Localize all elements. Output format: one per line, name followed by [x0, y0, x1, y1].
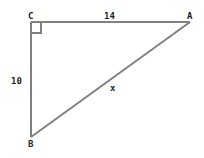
- triangle-edges: [31, 22, 190, 137]
- triangle-diagram: C A B 14 10 x: [0, 0, 204, 158]
- right-angle-marker: [31, 22, 41, 33]
- vertex-label-b: B: [28, 139, 34, 149]
- side-ab: [31, 22, 190, 137]
- vertex-label-a: A: [187, 11, 193, 21]
- side-label-ab: x: [110, 83, 116, 93]
- side-label-ca: 14: [104, 11, 115, 21]
- vertex-label-c: C: [28, 11, 33, 21]
- side-label-cb: 10: [11, 76, 22, 86]
